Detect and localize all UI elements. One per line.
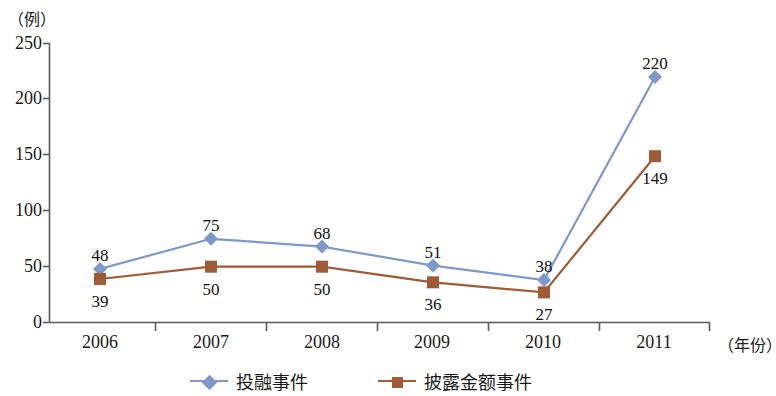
diamond-marker-icon [201, 374, 217, 390]
legend-line-swatch [190, 380, 228, 382]
data-label-tourong: 68 [314, 224, 331, 244]
square-marker-icon [649, 150, 661, 162]
legend-label: 披露金额事件 [424, 368, 532, 394]
legend-label: 投融事件 [236, 368, 308, 394]
data-label-tourong: 48 [92, 246, 109, 266]
data-label-pilujine: 36 [425, 295, 442, 315]
series-layer [93, 70, 662, 298]
data-label-pilujine: 39 [92, 292, 109, 312]
data-label-tourong: 51 [425, 243, 442, 263]
y-axis-ticks [43, 44, 50, 323]
data-label-tourong: 220 [642, 54, 668, 74]
legend-line-swatch [378, 380, 416, 382]
data-label-pilujine: 149 [642, 169, 668, 189]
square-marker-icon [316, 261, 328, 273]
data-label-tourong: 75 [203, 216, 220, 236]
legend-item-tourong[interactable]: 投融事件 [190, 368, 308, 394]
square-marker-icon [427, 276, 439, 288]
square-marker-icon [538, 286, 550, 298]
square-marker-icon [392, 377, 403, 388]
data-label-pilujine: 27 [536, 305, 553, 325]
x-axis-ticks [156, 323, 710, 332]
series-line [100, 77, 655, 280]
legend-item-pilujine[interactable]: 披露金额事件 [378, 368, 532, 394]
data-label-pilujine: 50 [203, 280, 220, 300]
square-marker-icon [205, 261, 217, 273]
chart-legend: 投融事件 披露金额事件 [0, 368, 771, 396]
square-marker-icon [94, 273, 106, 285]
data-label-tourong: 38 [536, 257, 553, 277]
series-line [100, 156, 655, 292]
data-label-pilujine: 50 [314, 280, 331, 300]
